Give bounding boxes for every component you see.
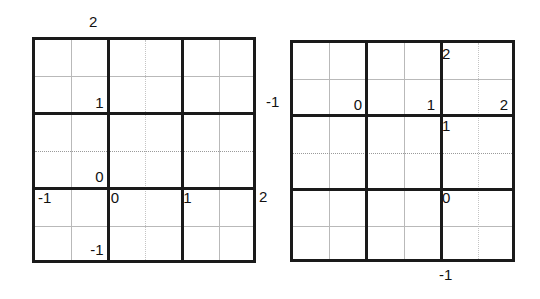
left-grid-right-label: 2	[259, 189, 267, 204]
left-cell-r3c1[interactable]	[35, 113, 71, 150]
left-cell-value-r6c2: -1	[90, 242, 103, 257]
right-cell-r6c1[interactable]	[293, 223, 330, 259]
figure-canvas: 2 1	[0, 0, 540, 299]
right-cell-value-r3c5: 1	[442, 118, 450, 133]
left-cell-value-r4c2: 0	[95, 169, 103, 184]
left-cell-r2c3[interactable]	[108, 77, 144, 114]
left-cell-r1c3[interactable]	[108, 40, 144, 77]
left-cell-value-r5c1: -1	[38, 190, 51, 205]
left-cell-r5c5[interactable]: 1	[180, 187, 216, 224]
left-cell-r1c5[interactable]	[180, 40, 216, 77]
right-grid: 2 0 1 2 1	[290, 40, 515, 262]
left-grid-cells: 1 0 -1 0 1	[35, 40, 253, 260]
right-cell-r5c4[interactable]	[403, 187, 440, 223]
right-cell-r3c1[interactable]	[293, 115, 330, 151]
right-cell-value-r2c4: 1	[427, 97, 435, 112]
right-cell-r5c2[interactable]	[330, 187, 367, 223]
right-cell-r2c4[interactable]: 1	[403, 79, 440, 115]
right-cell-r6c5[interactable]	[439, 223, 476, 259]
right-cell-value-r2c6: 2	[500, 97, 508, 112]
right-cell-r4c6[interactable]	[476, 151, 513, 187]
left-cell-r4c4[interactable]	[144, 150, 180, 187]
left-cell-value-r2c2: 1	[95, 95, 103, 110]
left-cell-r4c3[interactable]	[108, 150, 144, 187]
left-grid: 1 0 -1 0 1	[32, 37, 256, 263]
left-cell-r2c4[interactable]	[144, 77, 180, 114]
right-cell-value-r5c5: 0	[442, 190, 450, 205]
left-cell-r1c4[interactable]	[144, 40, 180, 77]
right-cell-r4c2[interactable]	[330, 151, 367, 187]
right-cell-r2c6[interactable]: 2	[476, 79, 513, 115]
left-cell-r4c1[interactable]	[35, 150, 71, 187]
right-cell-value-r2c2: 0	[354, 97, 362, 112]
left-cell-r6c3[interactable]	[108, 223, 144, 260]
right-cell-r1c2[interactable]	[330, 43, 367, 79]
left-cell-r3c2[interactable]	[71, 113, 107, 150]
left-cell-r5c2[interactable]	[71, 187, 107, 224]
right-cell-r6c2[interactable]	[330, 223, 367, 259]
left-cell-r6c5[interactable]	[180, 223, 216, 260]
left-cell-r4c2[interactable]: 0	[71, 150, 107, 187]
right-cell-r1c4[interactable]	[403, 43, 440, 79]
right-cell-r3c5[interactable]: 1	[439, 115, 476, 151]
left-cell-r5c6[interactable]	[217, 187, 253, 224]
left-cell-r3c3[interactable]	[108, 113, 144, 150]
left-cell-r5c4[interactable]	[144, 187, 180, 224]
left-cell-r3c6[interactable]	[217, 113, 253, 150]
left-cell-r1c1[interactable]	[35, 40, 71, 77]
right-cell-r1c3[interactable]	[366, 43, 403, 79]
left-cell-r6c6[interactable]	[217, 223, 253, 260]
left-grid-top-label: 2	[89, 14, 97, 29]
right-cell-r5c1[interactable]	[293, 187, 330, 223]
right-cell-r4c5[interactable]	[439, 151, 476, 187]
right-cell-r6c4[interactable]	[403, 223, 440, 259]
left-cell-value-r5c5: 1	[183, 190, 191, 205]
right-cell-r1c6[interactable]	[476, 43, 513, 79]
left-cell-r5c1[interactable]: -1	[35, 187, 71, 224]
left-cell-r6c4[interactable]	[144, 223, 180, 260]
left-cell-r4c6[interactable]	[217, 150, 253, 187]
right-cell-r3c2[interactable]	[330, 115, 367, 151]
left-cell-r2c6[interactable]	[217, 77, 253, 114]
right-cell-r1c1[interactable]	[293, 43, 330, 79]
left-cell-r3c4[interactable]	[144, 113, 180, 150]
left-cell-r6c1[interactable]	[35, 223, 71, 260]
left-cell-r1c6[interactable]	[217, 40, 253, 77]
right-grid-bottom-label: -1	[439, 267, 452, 282]
left-cell-r2c5[interactable]	[180, 77, 216, 114]
left-cell-r3c5[interactable]	[180, 113, 216, 150]
right-cell-r2c3[interactable]	[366, 79, 403, 115]
right-cell-r2c2[interactable]: 0	[330, 79, 367, 115]
right-cell-r4c4[interactable]	[403, 151, 440, 187]
left-cell-r4c5[interactable]	[180, 150, 216, 187]
left-cell-r2c1[interactable]	[35, 77, 71, 114]
right-cell-r6c6[interactable]	[476, 223, 513, 259]
right-grid-cells: 2 0 1 2 1	[293, 43, 512, 259]
left-cell-r2c2[interactable]: 1	[71, 77, 107, 114]
right-cell-r6c3[interactable]	[366, 223, 403, 259]
right-cell-r3c3[interactable]	[366, 115, 403, 151]
right-cell-r3c4[interactable]	[403, 115, 440, 151]
right-cell-r4c1[interactable]	[293, 151, 330, 187]
right-cell-value-r1c5: 2	[442, 46, 450, 61]
right-cell-r5c3[interactable]	[366, 187, 403, 223]
right-cell-r5c5[interactable]: 0	[439, 187, 476, 223]
right-cell-r5c6[interactable]	[476, 187, 513, 223]
left-cell-r6c2[interactable]: -1	[71, 223, 107, 260]
right-cell-r2c5[interactable]	[439, 79, 476, 115]
right-grid-left-label: -1	[266, 94, 279, 109]
left-cell-r5c3[interactable]: 0	[108, 187, 144, 224]
right-cell-r2c1[interactable]	[293, 79, 330, 115]
left-cell-value-r5c3: 0	[111, 190, 119, 205]
right-cell-r1c5[interactable]: 2	[439, 43, 476, 79]
left-cell-r1c2[interactable]	[71, 40, 107, 77]
right-cell-r3c6[interactable]	[476, 115, 513, 151]
right-cell-r4c3[interactable]	[366, 151, 403, 187]
